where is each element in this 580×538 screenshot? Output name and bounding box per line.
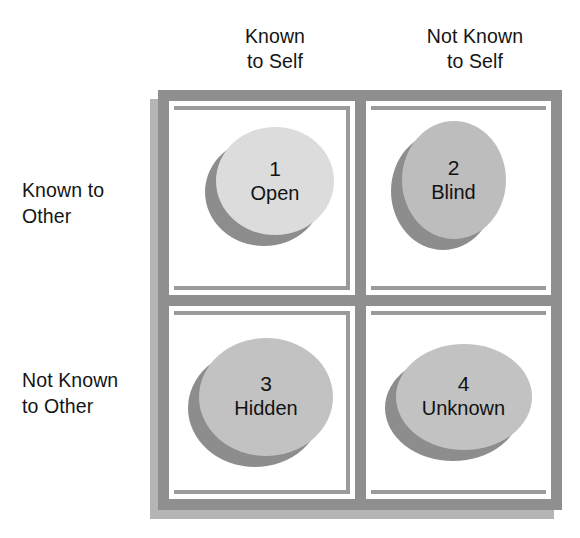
quadrant-number: 1 <box>269 157 281 181</box>
quadrant-number: 2 <box>448 156 460 180</box>
ellipse-body: 1 Open <box>216 127 334 235</box>
quadrant-open[interactable]: 1 Open <box>169 101 355 295</box>
ellipse-body: 4 Unknown <box>396 344 532 450</box>
frame-grid: 1 Open 2 Blind <box>158 90 562 510</box>
ellipse-hidden: 3 Hidden <box>199 338 333 456</box>
johari-window-diagram: Known to Self Not Known to Self Known to… <box>0 0 580 538</box>
quadrant-blind[interactable]: 2 Blind <box>366 101 552 295</box>
column-header-known-to-self: Known to Self <box>190 24 360 74</box>
quadrant-name: Unknown <box>422 396 505 421</box>
ellipse-unknown: 4 Unknown <box>396 344 532 450</box>
quadrant-name: Blind <box>431 180 475 205</box>
quadrant-unknown[interactable]: 4 Unknown <box>366 306 552 500</box>
window-frame: 1 Open 2 Blind <box>158 90 562 510</box>
ellipse-body: 3 Hidden <box>199 338 333 456</box>
column-header-not-known-to-self: Not Known to Self <box>385 24 565 74</box>
ellipse-open: 1 Open <box>216 127 334 235</box>
quadrant-number: 3 <box>260 372 272 396</box>
quadrant-number: 4 <box>458 372 470 396</box>
quadrant-hidden[interactable]: 3 Hidden <box>169 306 355 500</box>
ellipse-body: 2 Blind <box>402 121 506 239</box>
quadrant-name: Open <box>251 181 300 206</box>
quadrant-name: Hidden <box>234 396 297 421</box>
ellipse-blind: 2 Blind <box>402 121 506 239</box>
